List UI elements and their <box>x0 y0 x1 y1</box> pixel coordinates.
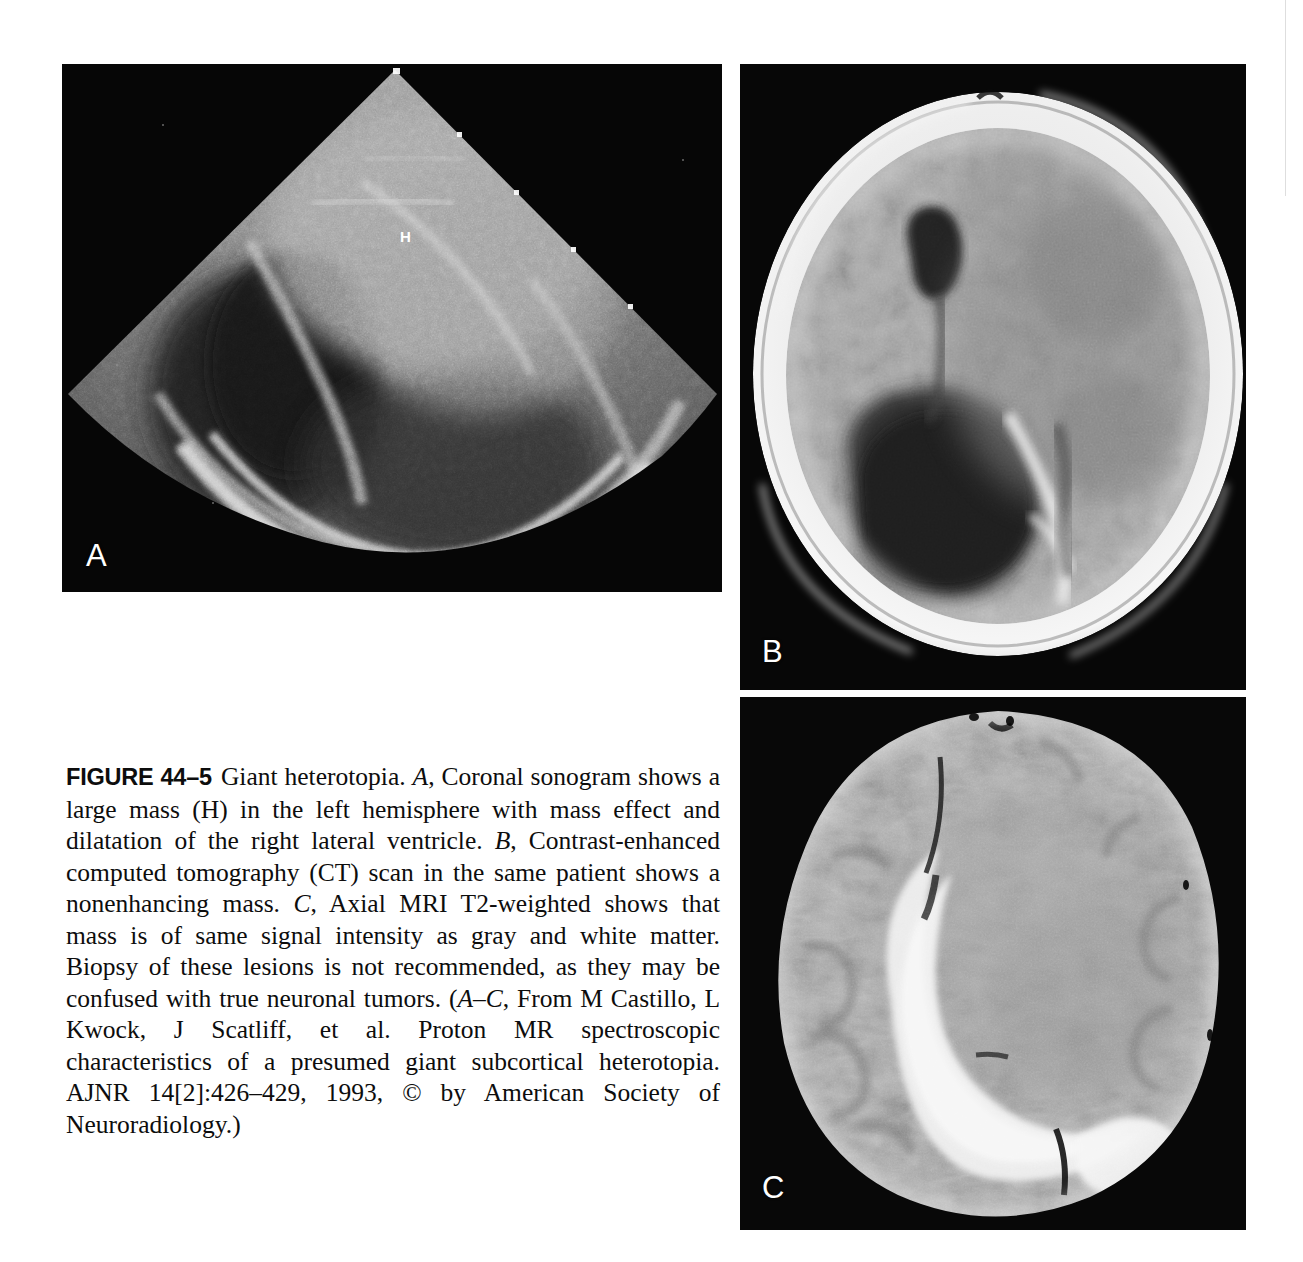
caption-marker-c: C <box>294 889 311 918</box>
sonogram-mass-marker-h: H <box>400 228 411 245</box>
figure-number: FIGURE 44–5 <box>66 764 212 790</box>
panel-label-a: A <box>86 538 107 574</box>
scan-artifact-line <box>1285 0 1286 196</box>
figure-panel-b: B <box>740 64 1246 690</box>
caption-source-marker: A–C <box>457 984 502 1013</box>
figure-caption: FIGURE 44–5Giant heterotopia. A, Coronal… <box>66 761 720 1140</box>
ct-scan-image <box>740 64 1246 690</box>
figure-panel-a: H A <box>62 64 722 592</box>
panel-label-c: C <box>762 1170 785 1206</box>
caption-marker-a: A <box>413 762 429 791</box>
figure-title: Giant heterotopia. <box>221 762 406 791</box>
figure-panel-c: C <box>740 697 1246 1230</box>
mri-scan-image <box>740 697 1246 1230</box>
caption-marker-b: B <box>495 826 511 855</box>
sonogram-image <box>62 64 722 592</box>
panel-label-b: B <box>762 634 783 670</box>
